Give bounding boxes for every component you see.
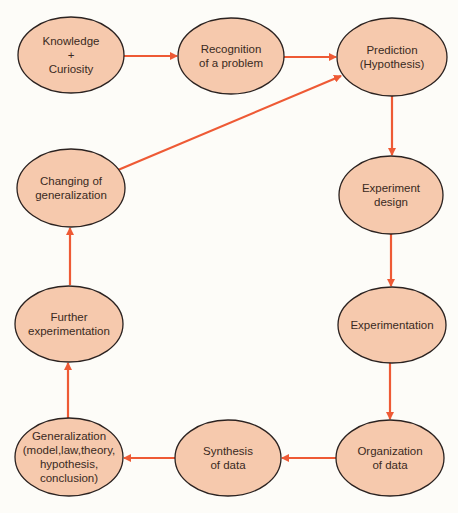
node-label-experiment-design: Experimentdesign [339, 156, 443, 234]
node-text-line: Recognition [201, 42, 262, 56]
node-text-line: + [68, 48, 75, 62]
node-text-line: Knowledge [43, 34, 100, 48]
node-label-generalization: Generalization(model,law,theory,hypothes… [15, 418, 123, 496]
node-label-knowledge: Knowledge+Curiosity [18, 17, 124, 93]
node-text-line: Changing of [40, 174, 102, 188]
node-text-line: (Hypothesis) [360, 57, 425, 71]
node-text-line: (model,law,theory, [23, 443, 115, 457]
node-text-line: conclusion) [40, 471, 98, 485]
node-text-line: generalization [35, 188, 107, 202]
node-text-line: Generalization [32, 429, 106, 443]
node-label-further-experimentation: Furtherexperimentation [15, 286, 123, 362]
node-text-line: Synthesis [203, 444, 253, 458]
node-text-line: of data [372, 458, 407, 472]
node-text-line: of data [210, 458, 245, 472]
node-text-line: Experiment [362, 181, 420, 195]
node-label-changing-generalization: Changing ofgeneralization [17, 149, 125, 227]
node-text-line: Prediction [366, 43, 417, 57]
node-text-line: Organization [357, 444, 422, 458]
node-label-prediction: Prediction(Hypothesis) [337, 18, 447, 96]
node-text-line: Experimentation [350, 318, 433, 332]
node-label-recognition: Recognitionof a problem [178, 18, 284, 94]
node-label-organization: Organizationof data [336, 420, 444, 496]
node-text-line: hypothesis, [40, 457, 98, 471]
node-text-line: experimentation [28, 324, 110, 338]
edges-layer [68, 56, 392, 458]
node-text-line: design [374, 195, 408, 209]
node-label-experimentation: Experimentation [338, 287, 446, 363]
node-text-line: Further [50, 310, 87, 324]
node-label-synthesis: Synthesisof data [175, 420, 281, 496]
node-text-line: Curiosity [49, 62, 94, 76]
node-text-line: of a problem [199, 56, 263, 70]
